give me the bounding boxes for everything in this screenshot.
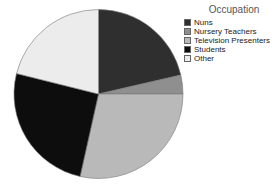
legend-item-nursery-teachers: Nursery Teachers: [184, 27, 280, 36]
swatch-icon: [184, 28, 191, 35]
swatch-icon: [184, 37, 191, 44]
pie-chart: [0, 0, 200, 184]
legend-item-nuns: Nuns: [184, 18, 280, 27]
legend-label: Nuns: [194, 18, 213, 27]
legend: Occupation Nuns Nursery Teachers Televis…: [184, 4, 280, 63]
legend-label: Students: [194, 45, 226, 54]
legend-title: Occupation: [184, 4, 280, 15]
legend-label: Nursery Teachers: [194, 27, 257, 36]
swatch-icon: [184, 19, 191, 26]
legend-item-students: Students: [184, 45, 280, 54]
swatch-icon: [184, 55, 191, 62]
legend-label: Other: [194, 54, 214, 63]
legend-label: Television Presenters: [194, 36, 270, 45]
legend-item-television-presenters: Television Presenters: [184, 36, 280, 45]
legend-item-other: Other: [184, 54, 280, 63]
swatch-icon: [184, 46, 191, 53]
